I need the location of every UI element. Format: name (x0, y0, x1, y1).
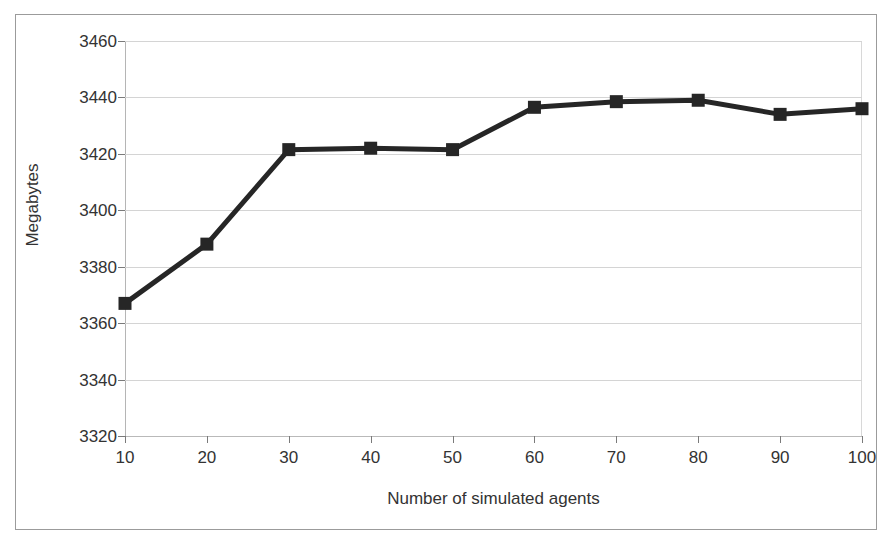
x-axis-tick-label: 60 (525, 449, 544, 466)
x-axis-title: Number of simulated agents (125, 489, 862, 509)
x-axis-tick-label: 80 (689, 449, 708, 466)
y-axis-tick-label: 3400 (79, 202, 117, 219)
data-point-marker (119, 297, 132, 310)
y-axis-tick-label: 3420 (79, 145, 117, 162)
x-axis-tick (207, 436, 208, 443)
x-axis-tick-label: 90 (771, 449, 790, 466)
y-axis-tick-label: 3460 (79, 33, 117, 50)
x-axis-tick (698, 436, 699, 443)
y-axis-tick-label: 3340 (79, 371, 117, 388)
x-axis-tick-label: 40 (361, 449, 380, 466)
x-axis-tick-marks (125, 436, 862, 444)
y-axis-tick (118, 154, 125, 155)
x-axis-tick-label: 100 (848, 449, 876, 466)
y-axis-tick (118, 380, 125, 381)
series-line (125, 100, 862, 303)
data-point-marker (446, 143, 459, 156)
y-axis-tick-label: 3440 (79, 89, 117, 106)
y-axis-tick-label: 3380 (79, 258, 117, 275)
y-axis-tick (118, 97, 125, 98)
data-point-marker (856, 102, 869, 115)
y-axis-tick-label: 3360 (79, 315, 117, 332)
data-point-marker (364, 142, 377, 155)
data-series-line (125, 41, 862, 436)
x-axis-tick (616, 436, 617, 443)
x-axis-tick-labels: 102030405060708090100 (125, 449, 862, 473)
x-axis-tick (125, 436, 126, 443)
data-point-marker (282, 143, 295, 156)
x-axis-tick (453, 436, 454, 443)
x-axis-tick (289, 436, 290, 443)
y-axis-tick (118, 436, 125, 437)
y-axis-tick (118, 323, 125, 324)
data-point-marker (610, 95, 623, 108)
y-axis-tick (118, 41, 125, 42)
y-axis-title: Megabytes (23, 125, 43, 285)
data-point-marker (692, 94, 705, 107)
data-point-marker (528, 101, 541, 114)
x-axis-tick-label: 20 (197, 449, 216, 466)
y-axis-tick (118, 210, 125, 211)
data-point-marker (200, 238, 213, 251)
chart-figure: 34603440342034003380336033403320 1020304… (15, 14, 877, 530)
x-axis-tick-label: 50 (443, 449, 462, 466)
data-point-marker (774, 108, 787, 121)
x-axis-tick (862, 436, 863, 443)
y-axis-tick-label: 3320 (79, 428, 117, 445)
x-axis-tick (534, 436, 535, 443)
x-axis-tick (780, 436, 781, 443)
x-axis-tick-label: 10 (116, 449, 135, 466)
x-axis-tick (371, 436, 372, 443)
x-axis-tick-label: 30 (279, 449, 298, 466)
y-axis-tick (118, 267, 125, 268)
x-axis-tick-label: 70 (607, 449, 626, 466)
